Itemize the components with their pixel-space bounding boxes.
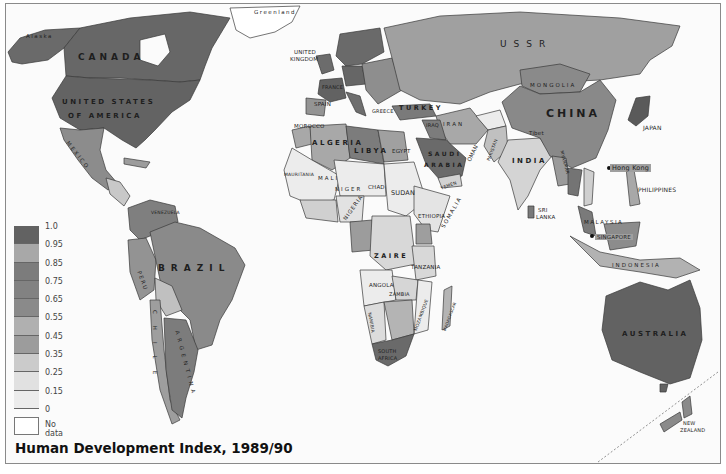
label-sri-lanka-1: SRI xyxy=(538,207,548,213)
legend-swatch xyxy=(14,244,39,262)
label-south-africa-2: AFRICA xyxy=(378,355,397,361)
label-algeria: ALGERIA xyxy=(312,139,363,147)
label-japan: JAPAN xyxy=(643,124,662,131)
dateline xyxy=(598,372,718,462)
label-malaysia: MALAYSIA xyxy=(584,219,623,225)
label-tibet: Tibet xyxy=(529,130,544,136)
legend-label: 1.0 xyxy=(45,222,58,231)
legend-label: 0.75 xyxy=(45,277,63,286)
region-zaire xyxy=(370,216,416,270)
label-uk-1: UNITED xyxy=(294,49,316,55)
label-zambia: ZAMBIA xyxy=(389,291,410,297)
legend-swatch-no-data xyxy=(14,417,39,435)
legend-label: 0 xyxy=(45,405,50,414)
label-brazil: BRAZIL xyxy=(158,263,230,273)
region-germany xyxy=(342,66,366,86)
legend-swatch xyxy=(14,226,39,244)
legend-label: 0.95 xyxy=(45,240,63,249)
label-chad: CHAD xyxy=(368,184,385,190)
region-italy xyxy=(346,92,366,116)
region-france xyxy=(318,78,346,102)
label-tanzania: TANZANIA xyxy=(411,264,440,270)
label-new-zealand-1: NEW xyxy=(683,420,695,426)
legend-label: 0.45 xyxy=(45,332,63,341)
legend-swatch xyxy=(14,391,39,409)
region-peru xyxy=(128,238,156,300)
region-central-america xyxy=(106,178,130,206)
region-botswana-zimbabwe xyxy=(384,300,414,340)
label-mali: MALI xyxy=(318,175,339,181)
label-zaire: ZAIRE xyxy=(374,252,408,260)
label-saudi-1: SAUDI xyxy=(428,150,461,157)
label-ethiopia: ETHIOPIA xyxy=(418,213,445,219)
legend-label: 0.85 xyxy=(45,259,63,268)
region-cuba xyxy=(124,158,150,168)
singapore-dot xyxy=(590,234,594,238)
label-usa-2: OF AMERICA xyxy=(68,112,142,120)
region-japan xyxy=(628,96,650,126)
label-alaska: Alaska xyxy=(26,33,53,39)
label-new-zealand-2: ZEALAND xyxy=(680,427,705,433)
region-uk xyxy=(316,54,334,74)
label-france: FRANCE xyxy=(322,84,343,90)
legend-label: 0.35 xyxy=(45,350,63,359)
legend-swatch xyxy=(14,281,39,299)
label-iraq: IRAQ xyxy=(426,122,439,128)
label-chile: CHILE xyxy=(152,310,158,386)
region-kenya xyxy=(416,224,432,244)
label-libya: LIBYA xyxy=(354,147,388,155)
legend-label: 0.25 xyxy=(45,368,63,377)
label-sri-lanka-2: LANKA xyxy=(536,214,555,220)
label-singapore: SINGAPORE xyxy=(595,234,633,240)
label-greenland: Greenland xyxy=(254,9,296,15)
label-uk-2: KINGDOM xyxy=(290,56,318,62)
label-spain: SPAIN xyxy=(314,101,331,107)
region-angola xyxy=(360,270,396,306)
label-angola: ANGOLA xyxy=(369,282,394,288)
legend-swatch xyxy=(14,336,39,354)
label-mauritania: MAURITANIA xyxy=(284,172,314,177)
label-morocco: MOROCCO xyxy=(294,123,325,129)
label-philippines: PHILIPPINES xyxy=(638,186,676,193)
region-scandinavia xyxy=(336,28,384,66)
label-australia: AUSTRALIA xyxy=(622,330,689,338)
label-turkey: TURKEY xyxy=(399,104,443,112)
label-greece: GREECE xyxy=(372,108,394,114)
legend-swatch xyxy=(14,317,39,335)
legend-label: 0.15 xyxy=(45,387,63,396)
region-vietnam xyxy=(584,168,594,206)
label-iran: IRAN xyxy=(443,121,464,127)
region-tanzania xyxy=(412,246,436,280)
legend-swatch xyxy=(14,299,39,317)
legend-swatch xyxy=(14,372,39,390)
label-niger: NIGER xyxy=(335,186,362,192)
region-sri-lanka xyxy=(528,206,534,218)
label-saudi-2: ARABIA xyxy=(424,161,464,168)
region-west-africa-coast xyxy=(300,200,338,222)
region-india xyxy=(498,138,552,210)
label-ussr: USSR xyxy=(500,39,552,49)
label-usa-1: UNITED STATES xyxy=(62,98,155,106)
legend-swatch xyxy=(14,263,39,281)
legend-label-no-data: No data xyxy=(45,420,63,438)
label-indonesia: INDONESIA xyxy=(612,262,661,268)
label-india: INDIA xyxy=(512,157,547,165)
region-morocco xyxy=(292,126,312,148)
region-namibia xyxy=(364,302,386,344)
label-egypt: EGYPT xyxy=(392,148,411,154)
legend-label: 0.65 xyxy=(45,295,63,304)
label-hong-kong: Hong Kong xyxy=(610,164,651,172)
legend-label: 0.55 xyxy=(45,313,63,322)
label-canada: CANADA xyxy=(78,52,145,62)
label-mongolia: MONGOLIA xyxy=(530,82,576,88)
label-china: CHINA xyxy=(546,107,600,120)
label-venezuela: VENEZUELA xyxy=(151,210,180,215)
label-south-africa-1: SOUTH xyxy=(378,348,397,354)
label-sudan: SUDAN xyxy=(391,189,415,197)
map-title: Human Development Index, 1989/90 xyxy=(15,440,293,456)
legend-swatch xyxy=(14,354,39,372)
region-tasmania xyxy=(660,384,668,392)
